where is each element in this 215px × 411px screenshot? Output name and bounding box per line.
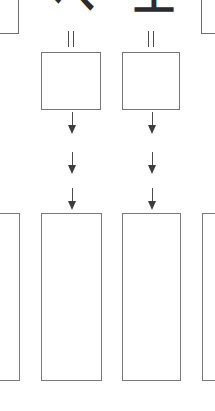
double-line-connector-right	[147, 31, 156, 47]
arrow-down-col2-row3	[147, 188, 158, 210]
arrow-down-col2-row1	[147, 112, 158, 134]
arrow-head	[68, 201, 76, 210]
bottom-rect-2[interactable]	[122, 213, 181, 381]
arrow-head	[148, 125, 156, 134]
arrow-head	[148, 165, 156, 174]
bottom-rect-1[interactable]	[41, 213, 102, 381]
top-right-partial-box[interactable]	[201, 0, 215, 34]
handwritten-glyph-chevron: へ	[48, 0, 100, 16]
arrow-head	[68, 125, 76, 134]
arrow-head	[68, 165, 76, 174]
arrow-down-col2-row2	[147, 152, 158, 174]
bottom-rect-0-partial[interactable]	[0, 213, 20, 381]
square-box-left[interactable]	[41, 52, 101, 110]
connector-line-b	[153, 31, 154, 47]
arrow-down-col1-row1	[67, 112, 78, 134]
square-box-right[interactable]	[122, 52, 180, 110]
connector-line-a	[148, 31, 149, 47]
handwritten-glyph-ko: 工	[128, 0, 180, 18]
diagram-canvas: へ 工	[0, 0, 215, 411]
top-left-partial-box[interactable]	[0, 0, 19, 34]
bottom-rect-3-partial[interactable]	[202, 213, 215, 381]
arrow-head	[148, 201, 156, 210]
double-line-connector-left	[67, 31, 76, 47]
connector-line-a	[68, 31, 69, 47]
connector-line-b	[73, 31, 74, 47]
arrow-down-col1-row3	[67, 188, 78, 210]
arrow-down-col1-row2	[67, 152, 78, 174]
